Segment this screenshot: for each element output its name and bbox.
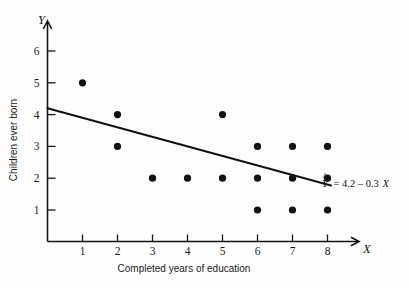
equation-hat-symbol: ^ (323, 171, 328, 182)
x-tick-label-6: 6 (255, 245, 261, 257)
tick-labels-group: 12345678123456 (34, 45, 331, 257)
y-tick-label-2: 2 (34, 172, 40, 184)
x-tick-label-8: 8 (325, 245, 331, 257)
data-point (324, 206, 331, 213)
data-point (289, 206, 296, 213)
data-point (289, 175, 296, 182)
data-point (289, 143, 296, 150)
data-point (114, 111, 121, 118)
y-tick-label-1: 1 (34, 204, 40, 216)
scatter-plot-figure: 12345678123456 Y X Completed years of ed… (0, 0, 409, 288)
y-tick-label-3: 3 (34, 140, 40, 152)
data-point (114, 143, 121, 150)
equation-x-var: X (381, 178, 389, 189)
x-tick-label-5: 5 (220, 245, 226, 257)
x-tick-label-4: 4 (185, 245, 191, 257)
x-tick-label-3: 3 (150, 245, 156, 257)
data-point (219, 175, 226, 182)
y-tick-label-5: 5 (34, 77, 40, 89)
axes-group (43, 21, 359, 246)
data-points-group (79, 79, 331, 213)
x-axis-letter: X (362, 242, 372, 256)
x-axis-title: Completed years of education (118, 263, 251, 274)
data-point (184, 175, 191, 182)
regression-equation-annotation: Y = 4.2 – 0.3 X ^ (322, 171, 389, 189)
y-tick-label-6: 6 (34, 45, 40, 57)
svg-text:Y = 4.2 – 0.3: Y = 4.2 – 0.3 X (322, 178, 389, 189)
equation-body: = 4.2 – 0.3 (333, 178, 378, 189)
data-point (324, 143, 331, 150)
regression-line-group (48, 108, 332, 185)
plot-canvas: 12345678123456 Y X Completed years of ed… (0, 0, 409, 288)
y-axis-title: Children ever born (8, 99, 19, 181)
data-point (219, 111, 226, 118)
y-tick-label-4: 4 (34, 109, 40, 121)
data-point (254, 175, 261, 182)
x-tick-label-2: 2 (115, 245, 121, 257)
regression-line (48, 108, 332, 185)
data-point (149, 175, 156, 182)
x-tick-label-1: 1 (80, 245, 86, 257)
data-point (254, 143, 261, 150)
data-point (79, 79, 86, 86)
data-point (254, 206, 261, 213)
x-tick-label-7: 7 (290, 245, 296, 257)
